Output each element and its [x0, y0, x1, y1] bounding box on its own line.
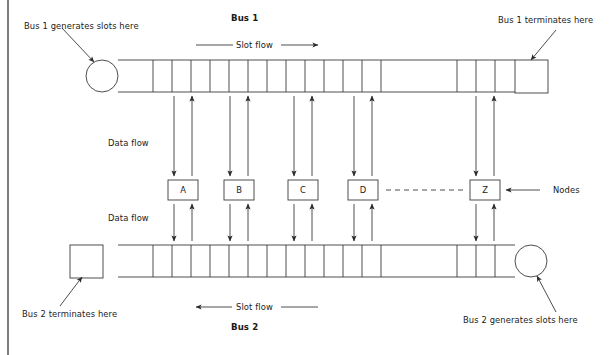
data-flow-upper-label: Data flow: [108, 139, 149, 147]
node-label-d: D: [348, 186, 378, 194]
leader-bus1-terminates: [531, 30, 556, 60]
node-label-a: A: [168, 186, 198, 194]
node-label-c: C: [288, 186, 318, 194]
node-label-b: B: [224, 186, 254, 194]
bus2-generator-circle: [515, 245, 547, 277]
data-flow-lower-label: Data flow: [108, 214, 149, 222]
bus1-generator-circle: [86, 60, 118, 92]
leader-bus2-generates: [537, 276, 556, 312]
callout-bus2-generates-label: Bus 2 generates slots here: [463, 316, 578, 324]
callout-bus1-generates-label: Bus 1 generates slots here: [24, 22, 139, 30]
leader-bus1-generates: [62, 28, 94, 62]
bus2-group: [70, 245, 547, 278]
callout-leaders: [60, 28, 556, 312]
bus2-title: Bus 2: [231, 323, 258, 332]
bus2-slot-dividers: [153, 245, 495, 277]
slot-flow-bottom-label: Slot flow: [236, 303, 273, 311]
diagram-vector-layer: [0, 0, 610, 355]
bus2-terminator-square: [70, 245, 103, 278]
lower-data-flow-arrows: [174, 204, 494, 241]
slot-flow-top-label: Slot flow: [236, 41, 273, 49]
callout-bus1-terminates-label: Bus 1 terminates here: [498, 16, 593, 24]
bus1-title: Bus 1: [231, 14, 258, 23]
node-label-z: Z: [470, 186, 500, 194]
slot-flow-indicators: [196, 45, 318, 307]
diagram-canvas: Bus 1 generates slots here Bus 1 Slot fl…: [0, 0, 610, 355]
bus1-terminator-square: [515, 60, 548, 93]
nodes-caption-label: Nodes: [553, 186, 580, 194]
leader-bus2-terminates: [60, 277, 82, 306]
callout-bus2-terminates-label: Bus 2 terminates here: [22, 310, 117, 318]
bus1-slot-dividers: [153, 60, 495, 92]
bus1-group: [86, 60, 548, 93]
upper-data-flow-arrows: [174, 96, 494, 176]
